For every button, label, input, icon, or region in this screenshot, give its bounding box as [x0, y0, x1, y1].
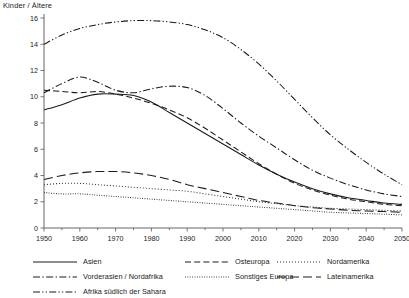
legend-item-label: Vorderasien / Nordafrika [83, 272, 163, 281]
svg-text:1990: 1990 [179, 234, 195, 243]
svg-text:2010: 2010 [251, 234, 267, 243]
svg-text:16: 16 [30, 14, 38, 23]
legend-item[interactable]: Nordamerika [277, 254, 373, 269]
legend-line-swatch [277, 272, 321, 282]
svg-text:10: 10 [30, 92, 38, 101]
series-line [44, 90, 402, 206]
legend-item-label: Nordamerika [327, 257, 369, 266]
legend-item-label: Lateinamerika [327, 272, 373, 281]
series-line [44, 171, 402, 212]
legend-column-1: AsienVorderasien / NordafrikaAfrika südl… [33, 254, 166, 298]
svg-text:2020: 2020 [287, 234, 303, 243]
chart-axes [41, 14, 403, 232]
legend-line-swatch [185, 257, 229, 267]
svg-text:2030: 2030 [322, 234, 338, 243]
legend-line-swatch [185, 272, 229, 282]
legend-item[interactable]: Vorderasien / Nordafrika [33, 269, 166, 284]
legend-line-swatch [277, 257, 321, 267]
svg-text:2000: 2000 [215, 234, 231, 243]
svg-text:2040: 2040 [358, 234, 374, 243]
legend-item[interactable]: Lateinamerika [277, 269, 373, 284]
chart-series-group [44, 20, 402, 214]
svg-text:1960: 1960 [72, 234, 88, 243]
legend-item-label: Asien [83, 257, 102, 266]
chart-legend: AsienVorderasien / NordafrikaAfrika südl… [0, 254, 409, 298]
svg-text:14: 14 [30, 40, 38, 49]
legend-item[interactable]: Asien [33, 254, 166, 269]
svg-text:1980: 1980 [143, 234, 159, 243]
svg-text:1950: 1950 [36, 234, 52, 243]
series-line [44, 193, 402, 215]
series-line [44, 20, 402, 184]
svg-text:1970: 1970 [108, 234, 124, 243]
svg-text:8: 8 [34, 119, 38, 128]
legend-item-label: Osteuropa [235, 257, 270, 266]
svg-text:4: 4 [34, 171, 38, 180]
svg-text:6: 6 [34, 145, 38, 154]
chart-container: Kinder / Ältere 024681012141619501960197… [0, 0, 409, 298]
svg-text:0: 0 [34, 224, 38, 233]
legend-column-3: NordamerikaLateinamerika [277, 254, 373, 284]
svg-text:12: 12 [30, 66, 38, 75]
legend-line-swatch [33, 287, 77, 297]
svg-text:2050: 2050 [394, 234, 409, 243]
legend-item[interactable]: Afrika südlich der Sahara [33, 284, 166, 298]
series-line [44, 183, 402, 211]
legend-item-label: Afrika südlich der Sahara [83, 287, 166, 296]
legend-line-swatch [33, 257, 77, 267]
svg-text:2: 2 [34, 197, 38, 206]
legend-line-swatch [33, 272, 77, 282]
series-line [44, 77, 402, 196]
